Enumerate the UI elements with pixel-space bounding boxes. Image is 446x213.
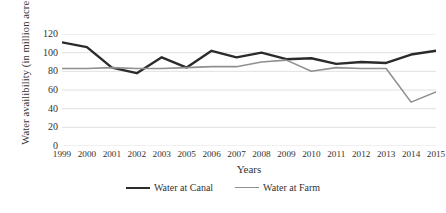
- x-axis-tick-labels: 1999200020012002200320052006200720082009…: [62, 149, 436, 163]
- y-tick-label: 100: [32, 48, 58, 58]
- y-axis-tick-labels: 120100806040200: [28, 34, 58, 146]
- y-tick-label: 80: [32, 66, 58, 76]
- plot-svg: [62, 34, 436, 146]
- legend-label-canal: Water at Canal: [154, 182, 213, 193]
- legend-line-farm-icon: [235, 187, 259, 188]
- y-tick-label: 120: [32, 29, 58, 39]
- chart-legend: Water at Canal Water at Farm: [0, 182, 446, 193]
- legend-item-canal[interactable]: Water at Canal: [126, 182, 213, 193]
- legend-item-farm[interactable]: Water at Farm: [235, 182, 320, 193]
- data-series-group: [62, 42, 436, 102]
- plot-area: [62, 34, 436, 146]
- gridlines: [62, 34, 436, 146]
- y-tick-label: 60: [32, 85, 58, 95]
- series-line-water-at-farm: [62, 60, 436, 102]
- x-tick-label: 2015: [419, 149, 446, 160]
- line-chart-figure: Water availibility (in million acre feet…: [0, 0, 446, 213]
- x-axis-title: Years: [62, 163, 436, 175]
- y-tick-label: 40: [32, 104, 58, 114]
- legend-line-canal-icon: [126, 187, 150, 189]
- legend-label-farm: Water at Farm: [263, 182, 320, 193]
- y-tick-label: 20: [32, 122, 58, 132]
